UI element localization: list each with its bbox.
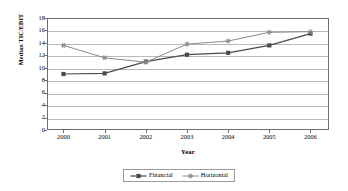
legend-label: Financial xyxy=(149,172,173,179)
x-axis-tick-mark xyxy=(228,130,229,133)
y-axis-tick-label: 8 xyxy=(15,77,45,83)
x-axis-title: Year xyxy=(47,148,329,155)
square-marker-icon xyxy=(61,72,65,76)
square-marker-icon xyxy=(103,71,107,75)
star-marker-icon xyxy=(267,30,272,35)
y-axis-tick-label: 6 xyxy=(15,89,45,95)
x-axis-tick-mark xyxy=(310,130,311,133)
y-axis-tick-label: 0 xyxy=(15,127,45,133)
y-axis-tick-label: 10 xyxy=(15,65,45,71)
x-axis-tick-label: 2002 xyxy=(126,134,166,140)
y-axis-tick-mark xyxy=(44,130,47,131)
x-axis-tick-mark xyxy=(105,130,106,133)
x-axis-tick-label: 2006 xyxy=(290,134,330,140)
x-axis-tick-mark xyxy=(146,130,147,133)
y-axis-tick-label: 4 xyxy=(15,102,45,108)
star-marker-icon xyxy=(102,56,107,61)
x-axis-tick-mark xyxy=(63,130,64,133)
chart-figure: Median TIC/EBIT 024681012141618200020012… xyxy=(0,0,348,191)
y-axis-tick-label: 18 xyxy=(15,15,45,21)
chart-legend: FinancialHorizontal xyxy=(123,169,235,182)
square-marker-icon xyxy=(136,173,140,177)
star-marker-icon xyxy=(226,39,231,44)
y-axis-tick-label: 14 xyxy=(15,40,45,46)
x-axis-tick-label: 2001 xyxy=(85,134,125,140)
x-axis-tick-label: 2000 xyxy=(43,134,83,140)
x-axis-tick-label: 2003 xyxy=(167,134,207,140)
series-line-horizontal xyxy=(63,32,310,62)
square-marker-icon xyxy=(185,53,189,57)
x-axis-tick-mark xyxy=(187,130,188,133)
square-marker-icon xyxy=(267,43,271,47)
y-axis-tick-label: 12 xyxy=(15,52,45,58)
y-axis-tick-label: 2 xyxy=(15,114,45,120)
x-axis-tick-mark xyxy=(269,130,270,133)
square-marker-icon xyxy=(130,172,147,180)
y-axis-tick-label: 16 xyxy=(15,27,45,33)
star-marker-icon xyxy=(184,42,189,47)
legend-item-horizontal[interactable]: Horizontal xyxy=(182,172,228,180)
series-layer xyxy=(47,18,329,130)
square-marker-icon xyxy=(226,51,230,55)
legend-label: Horizontal xyxy=(201,172,228,179)
x-axis-tick-label: 2004 xyxy=(208,134,248,140)
x-axis-tick-label: 2005 xyxy=(249,134,289,140)
star-marker-icon xyxy=(61,43,66,48)
star-marker-icon xyxy=(188,173,193,178)
star-marker-icon xyxy=(182,172,199,180)
legend-item-financial[interactable]: Financial xyxy=(130,172,173,180)
